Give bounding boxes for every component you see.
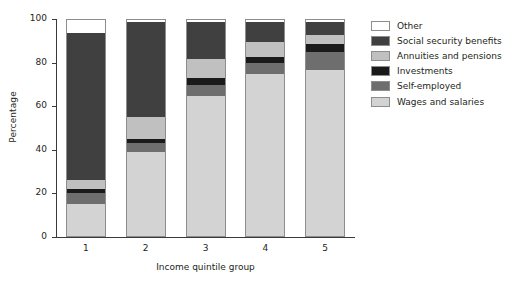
bar-segment[interactable] bbox=[67, 180, 105, 189]
bar-quintile-5[interactable] bbox=[305, 19, 345, 237]
bar-segment[interactable] bbox=[67, 20, 105, 33]
legend-item-label: Annuities and pensions bbox=[397, 51, 502, 61]
legend-item[interactable]: Wages and salaries bbox=[371, 94, 511, 109]
legend-swatch-icon bbox=[371, 97, 390, 107]
y-axis-title: Percentage bbox=[8, 57, 18, 177]
bar-segment[interactable] bbox=[306, 44, 344, 53]
bar-quintile-4[interactable] bbox=[245, 19, 285, 237]
legend-item[interactable]: Investments bbox=[371, 64, 511, 79]
plot-area bbox=[56, 19, 355, 237]
bar-segment[interactable] bbox=[127, 22, 165, 117]
legend-item[interactable]: Self-employed bbox=[371, 79, 511, 94]
bar-segment[interactable] bbox=[127, 117, 165, 139]
bar-quintile-2[interactable] bbox=[126, 19, 166, 237]
bar-segment[interactable] bbox=[187, 96, 225, 236]
legend-item[interactable]: Social security benefits bbox=[371, 33, 511, 48]
legend-item[interactable]: Annuities and pensions bbox=[371, 48, 511, 63]
x-axis-tick-label: 3 bbox=[186, 243, 226, 253]
legend-swatch-icon bbox=[371, 21, 390, 31]
legend-item[interactable]: Other bbox=[371, 18, 511, 33]
x-axis-tick-label: 1 bbox=[66, 243, 106, 253]
y-axis-tick-label: 60 bbox=[36, 100, 47, 110]
bar-quintile-3[interactable] bbox=[186, 19, 226, 237]
y-axis-tick-mark bbox=[52, 237, 56, 238]
bar-segment[interactable] bbox=[306, 22, 344, 35]
x-axis-tick-label: 5 bbox=[305, 243, 345, 253]
bar-segment[interactable] bbox=[187, 22, 225, 59]
legend-swatch-icon bbox=[371, 66, 390, 76]
bar-segment[interactable] bbox=[67, 33, 105, 180]
bar-segment[interactable] bbox=[187, 59, 225, 78]
y-axis-tick-label: 80 bbox=[36, 57, 47, 67]
bar-segment[interactable] bbox=[187, 85, 225, 96]
bar-segment[interactable] bbox=[306, 52, 344, 69]
bar-segment[interactable] bbox=[246, 42, 284, 57]
legend-item-label: Investments bbox=[397, 66, 453, 76]
x-axis-title: Income quintile group bbox=[56, 262, 355, 272]
stacked-bar-chart: Percentage 020406080100 12345 Income qui… bbox=[0, 0, 512, 293]
x-axis-tick-label: 4 bbox=[245, 243, 285, 253]
legend-swatch-icon bbox=[371, 81, 390, 91]
x-axis-tick-label: 2 bbox=[126, 243, 166, 253]
y-axis-tick-label: 0 bbox=[41, 231, 47, 241]
chart-legend: OtherSocial security benefitsAnnuities a… bbox=[371, 18, 511, 109]
bar-segment[interactable] bbox=[246, 63, 284, 74]
bar-segment[interactable] bbox=[67, 193, 105, 204]
bar-segment[interactable] bbox=[246, 22, 284, 41]
y-axis-tick-label: 20 bbox=[36, 187, 47, 197]
bar-quintile-1[interactable] bbox=[66, 19, 106, 237]
y-axis-tick-label: 100 bbox=[30, 13, 47, 23]
bar-segment[interactable] bbox=[306, 35, 344, 44]
legend-swatch-icon bbox=[371, 51, 390, 61]
bar-segment[interactable] bbox=[306, 70, 344, 236]
legend-item-label: Self-employed bbox=[397, 81, 461, 91]
legend-item-label: Social security benefits bbox=[397, 36, 502, 46]
y-axis-tick-label: 40 bbox=[36, 144, 47, 154]
bar-segment[interactable] bbox=[127, 152, 165, 236]
legend-item-label: Other bbox=[397, 21, 423, 31]
legend-item-label: Wages and salaries bbox=[397, 97, 484, 107]
x-axis-line bbox=[52, 237, 355, 238]
legend-swatch-icon bbox=[371, 36, 390, 46]
bar-segment[interactable] bbox=[246, 74, 284, 236]
bar-segment[interactable] bbox=[127, 143, 165, 152]
bar-segment[interactable] bbox=[67, 204, 105, 236]
